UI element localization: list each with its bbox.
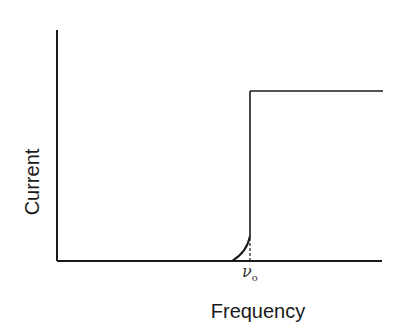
x-axis-label: Frequency bbox=[211, 300, 306, 323]
nu-subscript: o bbox=[252, 272, 258, 283]
threshold-label: νo bbox=[242, 262, 258, 283]
y-axis-label: Current bbox=[21, 149, 44, 216]
diagram: Current νo Frequency bbox=[0, 0, 406, 330]
plot-area bbox=[0, 0, 406, 330]
nu-symbol: ν bbox=[242, 262, 252, 281]
current-curve bbox=[232, 236, 250, 261]
